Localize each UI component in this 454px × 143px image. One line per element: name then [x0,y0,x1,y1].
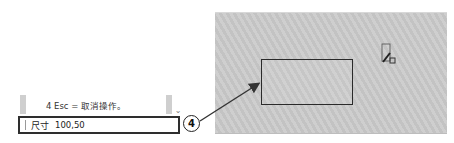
callout-arrow [0,0,454,143]
callout-badge: 4 [183,115,200,132]
